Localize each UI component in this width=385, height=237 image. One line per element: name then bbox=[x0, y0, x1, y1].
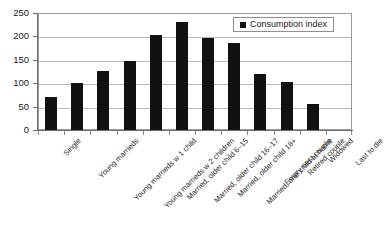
x-tick-mark bbox=[38, 131, 39, 135]
y-tick-label: 100 bbox=[13, 78, 29, 88]
y-tick-label: 0 bbox=[24, 125, 29, 135]
x-tick-mark bbox=[195, 131, 196, 135]
bar bbox=[228, 43, 240, 130]
x-tick-mark bbox=[221, 131, 222, 135]
x-tick-mark bbox=[143, 131, 144, 135]
y-tick-label: 200 bbox=[13, 31, 29, 41]
x-tick-mark bbox=[90, 131, 91, 135]
y-axis: 250200150100500 bbox=[0, 0, 38, 131]
chart-legend: Consumption index bbox=[233, 17, 334, 32]
bar bbox=[176, 22, 188, 130]
bar bbox=[124, 61, 136, 130]
x-axis-ticks bbox=[38, 131, 352, 136]
bar bbox=[150, 35, 162, 130]
bar bbox=[97, 71, 109, 130]
x-tick-mark bbox=[64, 131, 65, 135]
y-tick-label: 250 bbox=[13, 8, 29, 18]
y-tick-label: 150 bbox=[13, 55, 29, 65]
x-tick-mark bbox=[274, 131, 275, 135]
bar bbox=[71, 83, 83, 130]
legend-swatch-icon bbox=[240, 22, 246, 28]
x-tick-mark bbox=[326, 131, 327, 135]
x-tick-mark bbox=[117, 131, 118, 135]
bar bbox=[307, 104, 319, 130]
x-axis-label: Single bbox=[62, 137, 82, 157]
y-tick-label: 50 bbox=[18, 102, 29, 112]
bar bbox=[281, 82, 293, 130]
bar bbox=[45, 97, 57, 130]
x-tick-mark bbox=[351, 131, 352, 135]
x-axis-label: Last to die bbox=[354, 137, 384, 167]
x-axis-label: Young marrieds w 2 children bbox=[163, 137, 236, 210]
legend-label: Consumption index bbox=[250, 20, 327, 29]
x-tick-mark bbox=[169, 131, 170, 135]
bar bbox=[254, 74, 266, 130]
x-tick-mark bbox=[247, 131, 248, 135]
x-tick-mark bbox=[300, 131, 301, 135]
bar bbox=[202, 38, 214, 130]
x-axis-label: Young marrieds bbox=[98, 137, 141, 180]
